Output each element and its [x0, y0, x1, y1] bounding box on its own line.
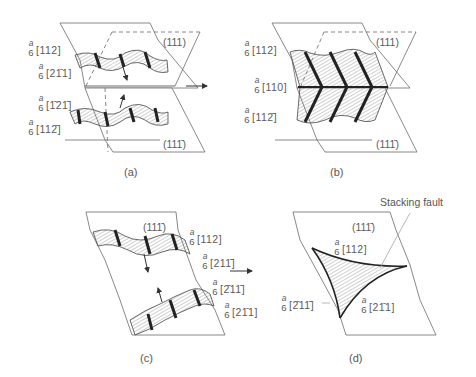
- panel-c-caption: (c): [140, 352, 153, 364]
- panel-a-burgers-3-frac: a6: [37, 94, 45, 112]
- panel-b-plane-top: (111): [376, 37, 399, 48]
- panel-a-burgers-4: [112̄]: [36, 124, 61, 135]
- panel-b-burgers-3-frac: a6: [243, 106, 251, 124]
- panel-b-burgers-1: [112]: [252, 45, 277, 56]
- panel-c-burgers-3-frac: a6: [211, 278, 219, 296]
- panel-a-burgers-1: [112]: [36, 45, 61, 56]
- panel-d-burgers-1: [112]: [342, 244, 367, 255]
- panel-d-burgers-2-frac: a6: [280, 294, 288, 312]
- panel-a-burgers-1-frac: a6: [27, 39, 35, 57]
- panel-c-burgers-1-frac: a6: [188, 228, 196, 246]
- panel-a-caption: (a): [124, 166, 137, 178]
- panel-c-burgers-3: [2̄11̄]: [220, 284, 245, 295]
- panel-d-burgers-2: [2̄11̄]: [289, 300, 314, 311]
- panel-a-burgers-2-frac: a6: [37, 62, 45, 80]
- stacking-fault-label: Stacking fault: [380, 196, 443, 208]
- panel-a-burgers-3: [1̄21̄]: [46, 100, 72, 111]
- panel-d-caption: (d): [349, 352, 362, 364]
- panel-c-burgers-4: [21̄1]: [232, 307, 258, 318]
- panel-a-burgers-2: [21̄1]: [46, 68, 72, 79]
- panel-b-burgers-2: [110]: [262, 82, 287, 93]
- panel-c-plane-top: (111̄): [143, 222, 166, 233]
- panel-b-caption: (b): [330, 166, 343, 178]
- panel-d-burgers-3-frac: a6: [360, 296, 368, 314]
- panel-c-burgers-2-frac: a6: [201, 252, 209, 270]
- panel-a-plane-bottom: (111̄): [163, 139, 186, 150]
- panel-b-plane-bottom: (111̄): [376, 139, 399, 150]
- panel-d-burgers-1-frac: a6: [333, 238, 341, 256]
- panel-c-burgers-4-frac: a6: [223, 301, 231, 319]
- panel-c-burgers-2: [211̄]: [210, 258, 235, 269]
- dislocation-diagram-art: [0, 0, 476, 377]
- panel-a-plane-top: (111): [163, 37, 186, 48]
- panel-d-plane-top: (111̄): [352, 222, 375, 233]
- panel-b-burgers-1-frac: a6: [243, 39, 251, 57]
- panel-b-burgers-3: [112̄]: [252, 112, 277, 123]
- panel-b-burgers-2-frac: a6: [253, 76, 261, 94]
- panel-c-burgers-1: [112]: [197, 234, 222, 245]
- panel-a-burgers-4-frac: a6: [27, 118, 35, 136]
- panel-d-burgers-3: [21̄1]: [369, 302, 395, 313]
